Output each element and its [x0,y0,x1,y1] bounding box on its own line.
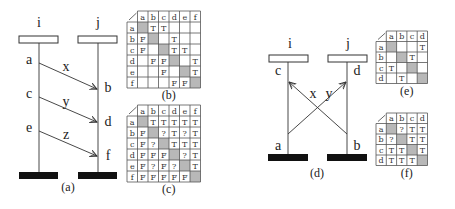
matrix-cell: F [171,79,177,88]
matrix-cell: T [399,156,405,165]
matrix-cell: T [172,35,178,44]
row-header: f [131,173,135,182]
corner-arrow-icon [378,115,385,122]
row-header: f [131,79,135,88]
diagonal-cell [148,33,159,44]
diagonal-cell [159,44,170,55]
matrix-cell: F [182,173,188,182]
caption-c: (c) [162,182,175,196]
diagonal-cell [397,52,407,63]
matrix-cell: T [193,140,199,149]
process-j-start-box-d [328,55,367,62]
event-b-label: b [105,80,112,95]
column-header: f [194,13,198,22]
matrix-cell: F [161,68,167,77]
column-header: a [389,32,394,41]
matrix-cell: T [182,140,188,149]
event-d-label: d [105,114,112,129]
matrix-cell: T [193,151,199,160]
column-header: e [182,107,187,116]
matrix-cell: F [140,151,146,160]
process-i-start-box-d [269,55,308,62]
event-b-label-d: b [354,138,361,153]
matrix-cell: T [172,129,178,138]
diagonal-cell [417,155,427,166]
matrix-cell: T [409,135,415,144]
diagonal-cell [169,55,180,66]
diagonal-cell [386,42,396,53]
matrix-cell: F [150,57,156,66]
diagonal-cell [159,138,170,149]
matrix-cell: T [193,68,199,77]
matrix-cell: F [140,35,146,44]
process-i-label: i [37,15,41,30]
row-header: d [130,57,135,66]
diagonal-cell [386,124,396,135]
matrix-cell: T [193,162,199,171]
column-header: e [182,13,187,22]
caption-d: (d) [310,166,324,180]
matrix-table-e: abcdaTbTcTdT(e) [376,31,428,98]
process-j-end-bar-d [327,154,367,161]
process-i-end-bar-d [268,154,308,161]
row-header: c [130,140,135,149]
column-header: d [172,107,177,116]
row-header: a [130,118,135,127]
matrix-table-b: abcdefaTTbFTcFTTdFFTeFTfFF(b) [127,11,201,102]
matrix-cell: T [389,64,395,73]
process-i-start-box [19,36,58,43]
matrix-cell: F [140,173,146,182]
matrix-cell: T [399,146,405,155]
row-header: b [379,135,384,144]
column-header: a [389,114,394,123]
matrix-cell: T [409,53,415,62]
process-j-start-box [78,36,117,43]
matrix-cell: T [420,125,426,134]
matrix-cell: T [193,57,199,66]
corner-arrow-icon [129,107,137,114]
process-i-end-bar [19,172,58,179]
matrix-cell: ? [151,140,155,149]
row-header: b [130,35,135,44]
matrix-cell: T [172,118,178,127]
process-i-label-d: i [288,36,292,51]
matrix-cell: T [172,140,178,149]
matrix-table-f: abcda?TTb?TTcTTTdTTT(f) [376,113,428,180]
caption-f: (f) [401,166,413,180]
matrix-cell: ? [151,162,155,171]
diagonal-cell [138,116,149,127]
diagonal-cell [180,66,191,77]
row-header: a [379,43,384,52]
process-j-label: j [95,15,100,30]
row-header: e [130,162,135,171]
matrix-cell: F [161,162,167,171]
matrix-cell: T [389,156,395,165]
message-z-label: z [63,127,69,142]
matrix-cell: T [182,118,188,127]
diagonal-cell [407,145,417,156]
figure-canvas: i j a c e b d f x y z (a) i j c [0,0,455,209]
message-y-label: y [63,94,70,109]
matrix-cell: T [161,24,167,33]
row-header: b [130,129,135,138]
message-y-arrow-d [288,82,346,134]
column-header: b [151,107,156,116]
diagonal-cell [138,22,149,33]
matrix-cell: F [161,173,167,182]
matrix-cell: F [140,140,146,149]
matrix-cell: ? [389,135,393,144]
caption-e: (e) [400,84,413,98]
row-header: a [379,125,384,134]
matrix-cell: T [151,24,157,33]
row-header: a [130,24,135,33]
matrix-cell: T [161,118,167,127]
column-header: d [420,114,425,123]
column-header: b [151,13,156,22]
matrix-cell: T [420,146,426,155]
event-c-label: c [26,86,32,101]
diagram-d: i j c d a b x y (d) [268,36,367,180]
column-header: c [162,13,167,22]
matrix-cell: T [389,146,395,155]
caption-a: (a) [61,180,74,194]
matrix-table-c: abcdefaTTTTTbF?T?TcF?TTTdFFF?TeF?F?TfFFF… [127,105,201,196]
